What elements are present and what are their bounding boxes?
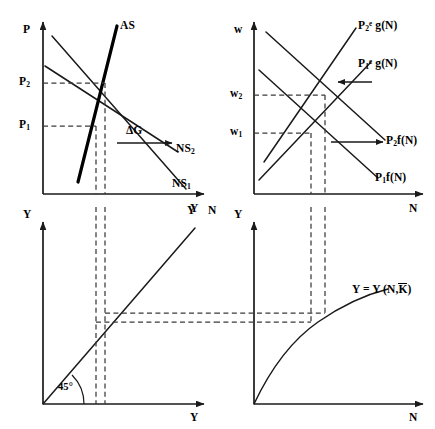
tick-label-w1: w1 [230, 126, 242, 138]
curve-label-p1-f: P1f(N) [375, 172, 406, 184]
tick-label-w2: w2 [230, 88, 242, 100]
prodfn-prefix: Y = Y (N, [352, 283, 398, 295]
ns1-sub: 1 [187, 182, 191, 191]
bl-x-axis-label: Y [190, 412, 198, 424]
br-top-n-label: N [208, 205, 216, 217]
tick-w1-sub: 1 [238, 130, 242, 139]
four-quadrant-diagram: P Y P2 P1 AS NS2 NS1 ΔG w N w2 w1 P2e g(… [0, 0, 435, 429]
p1f-tail: f(N) [386, 171, 406, 183]
curve-label-p2-f: P2f(N) [386, 135, 417, 147]
curve-45-degree [43, 228, 195, 404]
ns2-base: NS [176, 142, 191, 154]
curve-label-p2e-g: P2e g(N) [358, 20, 397, 32]
quadrant-top-left [43, 22, 204, 194]
curve-label-ns1: NS1 [172, 178, 191, 190]
angle-label-45: 45° [58, 382, 73, 393]
angle-arc-45 [72, 375, 84, 404]
tick-label-p2: P2 [19, 76, 30, 88]
curve-ns2 [45, 66, 178, 152]
br-x-axis-label: N [409, 412, 417, 424]
tick-w2-sub: 2 [238, 92, 242, 101]
p2f-tail: f(N) [397, 134, 417, 146]
curve-label-as: AS [120, 20, 135, 32]
tl-y-axis-label: P [23, 24, 30, 36]
bl-y-axis-label: Y [23, 209, 31, 221]
quadrant-top-right [254, 22, 423, 194]
tr-x-axis-label: N [409, 203, 417, 215]
ns2-sub: 2 [191, 147, 195, 156]
p1eg-tail: g(N) [372, 57, 397, 69]
bl-top-y-label: Y [187, 205, 195, 217]
p2eg-tail: g(N) [372, 19, 397, 31]
tick-p2-sub: 2 [26, 80, 30, 89]
tick-label-p1: P1 [19, 119, 30, 131]
curve-label-ns2: NS2 [176, 143, 195, 155]
tr-y-axis-label: w [234, 24, 242, 36]
tick-p1-sub: 1 [26, 123, 30, 132]
curve-ns1 [52, 36, 186, 189]
br-y-axis-label: Y [234, 209, 242, 221]
quadrant-bottom-left [43, 207, 215, 404]
curve-label-production-function: Y = Y (N,K) [352, 283, 411, 296]
quadrant-bottom-right [215, 207, 423, 404]
annotation-delta-g: ΔG [126, 125, 142, 137]
curve-production-function [254, 289, 388, 404]
curve-label-p1e-g: P1e g(N) [358, 58, 397, 70]
prodfn-suffix: ) [407, 283, 411, 295]
ns1-base: NS [172, 177, 187, 189]
